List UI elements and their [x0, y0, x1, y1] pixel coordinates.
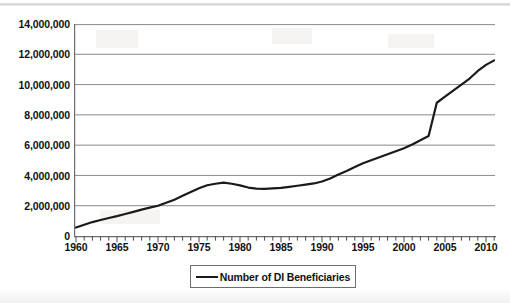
y-tick-label: 10,000,000	[2, 80, 70, 90]
y-tick-label: 12,000,000	[2, 49, 70, 59]
plot-area	[74, 24, 495, 236]
x-tick-label: 1980	[220, 241, 260, 253]
x-tick-label: 1965	[97, 241, 137, 253]
scan-artifact-bottom-smudge	[0, 289, 510, 303]
gridlines	[74, 25, 495, 236]
plot-svg	[74, 24, 495, 236]
x-axis-labels: 1960 1965 1970 1975 1980 1985 1990 1995 …	[0, 241, 510, 255]
y-tick-label: 4,000,000	[2, 171, 70, 181]
y-tick-label: 8,000,000	[2, 110, 70, 120]
series-line-di-beneficiaries	[76, 60, 494, 227]
y-tick-label: 14,000,000	[2, 19, 70, 29]
line-chart: 14,000,000 12,000,000 10,000,000 8,000,0…	[0, 0, 510, 303]
legend-item-label: Number of DI Beneficiaries	[220, 271, 350, 283]
x-tick-label: 2010	[466, 241, 506, 253]
x-tick-label: 1975	[179, 241, 219, 253]
legend-line-swatch-icon	[196, 276, 218, 278]
x-tick-label: 2000	[384, 241, 424, 253]
y-axis-labels: 14,000,000 12,000,000 10,000,000 8,000,0…	[0, 0, 70, 303]
x-tick-label: 1970	[138, 241, 178, 253]
legend: Number of DI Beneficiaries	[190, 265, 356, 288]
y-tick-label: 2,000,000	[2, 201, 70, 211]
x-tick-label: 2005	[425, 241, 465, 253]
x-tick-label: 1985	[261, 241, 301, 253]
x-tick-label: 1990	[302, 241, 342, 253]
x-tick-label: 1995	[343, 241, 383, 253]
legend-item-di-beneficiaries: Number of DI Beneficiaries	[196, 271, 350, 283]
y-tick-label: 0	[2, 231, 70, 241]
x-tick-label: 1960	[56, 241, 96, 253]
y-tick-label: 6,000,000	[2, 140, 70, 150]
